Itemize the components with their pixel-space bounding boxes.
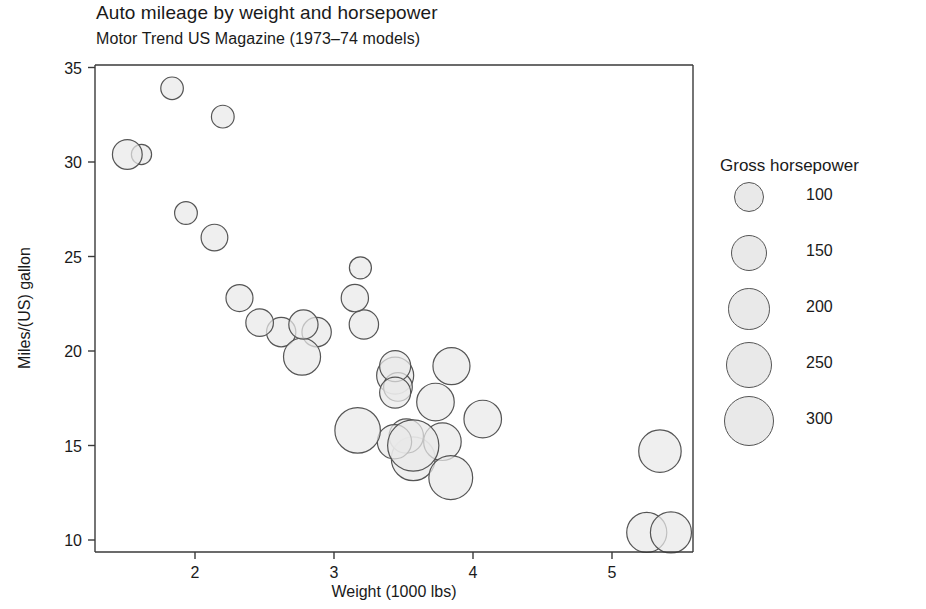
data-point-bubble <box>289 310 318 339</box>
legend-bubble-swatch <box>731 235 767 271</box>
data-point-bubble <box>335 408 381 454</box>
legend-entry-label: 200 <box>806 298 833 316</box>
legend-entry: 100 <box>700 168 926 224</box>
axis-layer: 2345101520253035 <box>64 60 693 582</box>
data-point-bubble <box>417 383 455 421</box>
x-tick-label: 2 <box>191 564 200 581</box>
data-point-bubble <box>650 512 691 553</box>
data-point-bubble <box>349 310 378 339</box>
legend-entry: 250 <box>700 336 926 392</box>
data-point-bubble <box>112 140 142 170</box>
legend-entry: 300 <box>700 392 926 448</box>
legend-bubble-swatch <box>724 396 774 446</box>
data-point-bubble <box>161 77 184 100</box>
y-tick-label: 10 <box>64 532 82 549</box>
data-point-bubble <box>341 284 368 311</box>
y-axis-label: Miles/(US) gallon <box>16 247 33 369</box>
data-point-bubble <box>464 400 502 438</box>
legend-entry: 150 <box>700 224 926 280</box>
x-tick-label: 3 <box>330 564 339 581</box>
y-tick-label: 20 <box>64 343 82 360</box>
x-tick-label: 5 <box>608 564 617 581</box>
legend-bubble-swatch <box>726 342 772 388</box>
y-tick-label: 25 <box>64 249 82 266</box>
chart-root: Auto mileage by weight and horsepower Mo… <box>0 0 926 609</box>
data-point-bubble <box>211 105 234 128</box>
data-point-bubble <box>284 338 321 375</box>
legend-entry-label: 300 <box>806 410 833 428</box>
y-tick-label: 15 <box>64 438 82 455</box>
y-tick-label: 35 <box>64 60 82 77</box>
bubble-layer <box>112 77 691 553</box>
data-point-bubble <box>433 348 470 385</box>
legend: Gross horsepower 100150200250300 <box>700 140 926 470</box>
data-point-bubble <box>175 202 198 225</box>
y-tick-label: 30 <box>64 154 82 171</box>
data-point-bubble <box>349 257 371 279</box>
legend-entry: 200 <box>700 280 926 336</box>
data-point-bubble <box>246 309 274 337</box>
x-tick-label: 4 <box>469 564 478 581</box>
legend-entry-label: 150 <box>806 242 833 260</box>
legend-entry-label: 250 <box>806 354 833 372</box>
data-point-bubble <box>380 377 411 408</box>
data-point-bubble <box>429 456 473 500</box>
legend-entry-label: 100 <box>806 186 833 204</box>
legend-bubble-swatch <box>728 288 770 330</box>
x-axis-label: Weight (1000 lbs) <box>331 583 456 600</box>
data-point-bubble <box>201 224 228 251</box>
data-point-bubble <box>388 420 439 471</box>
legend-bubble-swatch <box>734 182 764 212</box>
data-point-bubble <box>226 285 253 312</box>
data-point-bubble <box>639 430 681 472</box>
